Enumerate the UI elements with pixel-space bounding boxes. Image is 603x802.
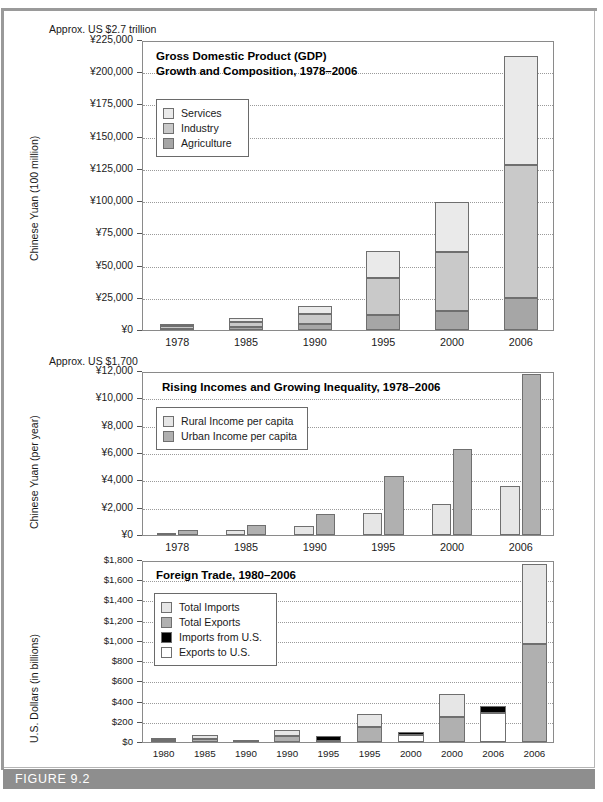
bar-segment-agriculture — [298, 324, 332, 330]
legend-item: Total Imports — [161, 600, 268, 614]
gridline — [143, 234, 553, 235]
legend-label: Services — [181, 107, 222, 119]
gridline — [143, 682, 553, 683]
gdp-title-line1: Gross Domestic Product (GDP) — [156, 50, 327, 62]
bar-segment-services — [229, 318, 263, 321]
incomes-y-axis: ¥0¥2,000¥4,000¥6,000¥8,000¥10,000¥12,000 — [64, 372, 142, 536]
bar-1995 — [366, 251, 400, 330]
gdp-y-axis: ¥0¥25,000¥50,000¥75,000¥100,000¥125,000¥… — [64, 41, 142, 331]
bar-segment-total_exports — [522, 644, 548, 742]
bar-1978 — [160, 325, 194, 330]
gridline — [143, 399, 553, 400]
bar-segment-agriculture — [504, 298, 538, 330]
bar-segment-industry — [504, 165, 538, 298]
gridline — [143, 299, 553, 300]
bar-1978-urban — [178, 530, 197, 535]
bar-1995-5 — [357, 714, 383, 742]
legend-swatch — [163, 123, 174, 134]
legend-swatch — [161, 647, 172, 658]
bar-segment-exports_to_us — [480, 713, 506, 742]
bar-segment-agriculture — [366, 315, 400, 330]
y-tick-label: $200 — [63, 716, 133, 727]
bar-segment-total_exports — [274, 736, 300, 742]
bar-segment-imports_from_us — [480, 706, 506, 713]
legend-label: Rural Income per capita — [181, 415, 293, 427]
chart-incomes: Approx. US $1,700 Chinese Yuan (per year… — [4, 349, 596, 551]
bar-segment-services — [160, 324, 194, 326]
bar-2006-rural — [500, 486, 519, 535]
bar-segment-services — [435, 202, 469, 252]
bar-segment-services — [504, 56, 538, 165]
legend-label: Total Exports — [179, 616, 240, 628]
gridline — [143, 372, 553, 373]
y-tick-label: ¥150,000 — [63, 131, 133, 142]
bar-1990-3 — [274, 730, 300, 742]
bar-segment-total_imports — [522, 564, 548, 644]
bar-segment-total_imports — [357, 714, 383, 727]
bar-1995-rural — [363, 513, 382, 535]
bar-1978-rural — [157, 533, 176, 535]
bar-segment-industry — [366, 278, 400, 315]
y-tick-label: ¥75,000 — [63, 227, 133, 238]
bar-segment-industry — [298, 314, 332, 324]
gdp-title: Gross Domestic Product (GDP) Growth and … — [156, 49, 357, 79]
legend-item: Industry — [163, 121, 240, 135]
x-tick-label: 1985 — [212, 336, 281, 348]
x-tick-label: 2000 — [418, 336, 487, 348]
incomes-legend: Rural Income per capitaUrban Income per … — [156, 407, 308, 450]
trade-y-axis: $0$200$400$600$800$1,000$1,200$1,400$1,6… — [64, 561, 142, 743]
y-tick-label: ¥0 — [63, 529, 133, 540]
gdp-plot-area: 197819851990199520002006 — [142, 41, 554, 331]
gridline — [143, 509, 553, 510]
legend-swatch — [163, 416, 174, 427]
y-tick-label: ¥175,000 — [63, 98, 133, 109]
y-tick-label: ¥12,000 — [63, 365, 133, 376]
bar-2006-urban — [522, 374, 541, 535]
legend-swatch — [161, 632, 172, 643]
x-tick-label: 2006 — [473, 748, 514, 759]
y-tick-label: $1,200 — [63, 615, 133, 626]
bar-segment-total_imports — [439, 694, 465, 717]
x-tick-label: 1990 — [280, 336, 349, 348]
incomes-y-axis-label: Chinese Yuan (per year) — [28, 415, 40, 529]
y-tick-label: ¥0 — [63, 324, 133, 335]
bar-segment-industry — [160, 326, 194, 328]
y-tick-label: $0 — [63, 736, 133, 747]
y-tick-label: ¥10,000 — [63, 392, 133, 403]
gdp-y-axis-label: Chinese Yuan (100 million) — [28, 136, 40, 261]
bar-1985-urban — [247, 525, 266, 535]
chart-trade: U.S. Dollars (in billions) $0$200$400$60… — [4, 551, 596, 769]
bar-segment-exports_to_us — [398, 735, 424, 742]
gridline — [143, 267, 553, 268]
bar-segment-total_exports — [151, 740, 177, 742]
y-tick-label: ¥200,000 — [63, 66, 133, 77]
y-tick-label: ¥100,000 — [63, 195, 133, 206]
y-tick-label: ¥225,000 — [63, 34, 133, 45]
gridline — [143, 170, 553, 171]
x-tick-label: 1990 — [267, 748, 308, 759]
legend-label: Exports to U.S. — [179, 646, 250, 658]
x-tick-label: 1990 — [225, 748, 266, 759]
bar-2000-6 — [398, 732, 424, 742]
bar-1990-2 — [233, 740, 259, 742]
x-tick-label: 1995 — [308, 748, 349, 759]
trade-legend: Total ImportsTotal ExportsImports from U… — [154, 593, 277, 666]
x-tick-label: 1980 — [143, 748, 184, 759]
x-tick-label: 1978 — [143, 336, 212, 348]
bar-2006-9 — [522, 564, 548, 742]
bar-1990 — [298, 306, 332, 330]
legend-item: Services — [163, 106, 240, 120]
legend-swatch — [161, 617, 172, 628]
bar-segment-total_imports — [151, 738, 177, 740]
gridline — [143, 703, 553, 704]
bar-segment-total_imports — [274, 730, 300, 735]
figure-caption-text: FIGURE 9.2 — [15, 772, 90, 786]
legend-item: Exports to U.S. — [161, 645, 268, 659]
bar-segment-total_exports — [439, 717, 465, 742]
legend-item: Agriculture — [163, 136, 240, 150]
chart-gdp: Approx. US $2.7 trillion Chinese Yuan (1… — [4, 11, 596, 349]
legend-swatch — [161, 602, 172, 613]
bar-1990-rural — [294, 526, 313, 535]
trade-y-axis-label: U.S. Dollars (in billions) — [28, 634, 40, 743]
bar-segment-agriculture — [229, 327, 263, 330]
